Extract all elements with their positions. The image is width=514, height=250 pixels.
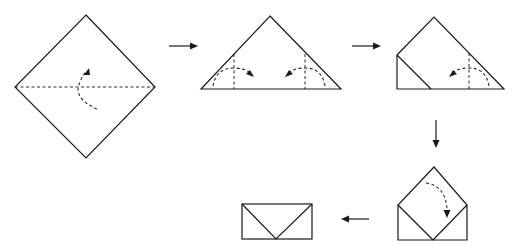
paper-square-outline: [15, 15, 155, 158]
triangle-outline: [201, 16, 341, 89]
folded-shape-outline: [397, 17, 504, 89]
step-5-closed-envelope: [242, 204, 312, 239]
fold-right-corner-arrow-icon: [288, 68, 325, 86]
envelope-v-flap: [242, 204, 312, 239]
next-step-arrow-right-2: [352, 43, 381, 50]
fold-right-corner-arrow-icon: [452, 68, 489, 86]
arrowhead-icon: [84, 68, 90, 75]
arrowhead-icon: [285, 70, 293, 77]
step-1-diamond: [15, 15, 155, 158]
arrow-right-icon: [373, 43, 381, 50]
origami-envelope-diagram: [0, 0, 514, 250]
fold-up-arrow-icon: [78, 71, 97, 109]
fold-flap-down-arrow-icon: [426, 183, 447, 210]
left-flap-edge: [398, 205, 433, 240]
arrowhead-icon: [444, 210, 451, 218]
envelope-rectangle: [242, 204, 312, 239]
next-step-arrow-down: [433, 120, 440, 148]
next-step-arrow-right-1: [169, 43, 198, 50]
arrow-left-icon: [341, 216, 349, 223]
arrowhead-icon: [449, 70, 457, 77]
arrow-down-icon: [433, 140, 440, 148]
envelope-outline: [398, 167, 467, 240]
step-4-open-envelope: [398, 167, 467, 240]
step-3-left-folded: [397, 17, 504, 89]
next-step-arrow-left: [341, 216, 369, 223]
arrow-right-icon: [190, 43, 198, 50]
step-2-triangle: [201, 16, 341, 89]
left-flap-edge: [397, 55, 431, 89]
